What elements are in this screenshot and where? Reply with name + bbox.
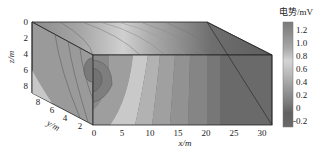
svg-text:6: 6 <box>50 105 55 115</box>
svg-text:0.8: 0.8 <box>296 51 308 61</box>
svg-text:8: 8 <box>24 81 29 91</box>
x-axis-label: x/m <box>178 138 192 148</box>
svg-text:8: 8 <box>36 97 41 107</box>
svg-text:4: 4 <box>24 49 29 59</box>
svg-text:-0.2: -0.2 <box>293 116 307 126</box>
svg-text:5: 5 <box>120 128 125 138</box>
svg-text:2: 2 <box>24 33 29 43</box>
svg-text:0: 0 <box>296 103 301 113</box>
svg-text:2: 2 <box>78 121 83 131</box>
svg-text:20: 20 <box>202 128 212 138</box>
svg-text:1.0: 1.0 <box>296 38 308 48</box>
chart-3d-block: 0 2 4 6 8 z/m 8 6 4 2 y/m 0 5 10 15 20 2… <box>0 0 324 156</box>
z-axis: 0 2 4 6 8 z/m <box>6 17 32 93</box>
svg-text:0: 0 <box>92 128 97 138</box>
svg-text:10: 10 <box>146 128 156 138</box>
z-axis-label: z/m <box>6 50 16 64</box>
svg-text:0.4: 0.4 <box>296 77 308 87</box>
svg-text:1.2: 1.2 <box>296 25 307 35</box>
svg-text:4: 4 <box>63 113 68 123</box>
svg-text:0: 0 <box>24 17 29 27</box>
svg-text:30: 30 <box>258 128 268 138</box>
svg-text:0.2: 0.2 <box>296 90 307 100</box>
svg-text:15: 15 <box>174 128 184 138</box>
colorbar-title: 电势/mV <box>279 6 314 17</box>
svg-text:0.6: 0.6 <box>296 64 308 74</box>
svg-text:25: 25 <box>230 128 240 138</box>
colorbar: 电势/mV 1.2 1.0 0.8 0.6 0.4 0.2 0 -0.2 <box>279 6 314 127</box>
front-face <box>93 55 272 125</box>
y-axis-label: y/m <box>45 117 63 133</box>
x-axis: 0 5 10 15 20 25 30 x/m <box>92 128 267 148</box>
svg-text:6: 6 <box>24 65 29 75</box>
